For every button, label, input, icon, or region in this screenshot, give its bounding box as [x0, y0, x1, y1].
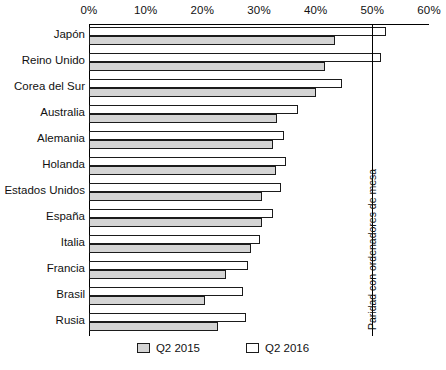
- bar-q2-2015: [89, 140, 273, 149]
- bar-q2-2015: [89, 88, 316, 97]
- category-label: Estados Unidos: [4, 184, 85, 196]
- gray-swatch-icon: [137, 343, 150, 353]
- category-label: Japón: [54, 28, 85, 40]
- x-tick-0: 0%: [80, 4, 97, 16]
- white-swatch-icon: [246, 343, 259, 353]
- legend-item-q2-2015: Q2 2015: [137, 342, 200, 354]
- category-label: Holanda: [42, 158, 85, 170]
- x-tick-6: 60%: [417, 4, 441, 16]
- bar-q2-2015: [89, 114, 277, 123]
- chart-legend: Q2 2015 Q2 2016: [0, 342, 446, 354]
- plot-area: [89, 24, 429, 336]
- bar-q2-2015: [89, 192, 262, 201]
- legend-label-q2-2015: Q2 2015: [156, 342, 200, 354]
- category-label: Rusia: [56, 314, 85, 326]
- category-label: Brasil: [56, 288, 85, 300]
- x-tick-2: 20%: [190, 4, 214, 16]
- bar-q2-2015: [89, 36, 335, 45]
- x-tick-4: 40%: [304, 4, 328, 16]
- bar-q2-2015: [89, 62, 325, 71]
- category-label: Italia: [61, 236, 85, 248]
- x-tick-1: 10%: [134, 4, 158, 16]
- category-label: Francia: [47, 262, 85, 274]
- bar-chart: 0% 10% 20% 30% 40% 50% 60% JapónReino Un…: [0, 0, 446, 370]
- legend-item-q2-2016: Q2 2016: [246, 342, 309, 354]
- x-tick-3: 30%: [247, 4, 271, 16]
- x-tick-5: 50%: [360, 4, 384, 16]
- bar-q2-2015: [89, 296, 205, 305]
- category-label: Corea del Sur: [14, 80, 85, 92]
- category-labels: JapónReino UnidoCorea del SurAustraliaAl…: [0, 24, 85, 336]
- category-label: Reino Unido: [22, 54, 85, 66]
- legend-label-q2-2016: Q2 2016: [265, 342, 309, 354]
- category-label: Australia: [40, 106, 85, 118]
- bar-q2-2015: [89, 244, 251, 253]
- bar-q2-2015: [89, 218, 262, 227]
- parity-annotation-label: Paridad con ordenadores de mesa: [366, 169, 378, 330]
- bar-q2-2015: [89, 166, 276, 175]
- bar-q2-2015: [89, 322, 218, 331]
- category-label: España: [46, 210, 85, 222]
- category-label: Alemania: [37, 132, 85, 144]
- bar-q2-2015: [89, 270, 226, 279]
